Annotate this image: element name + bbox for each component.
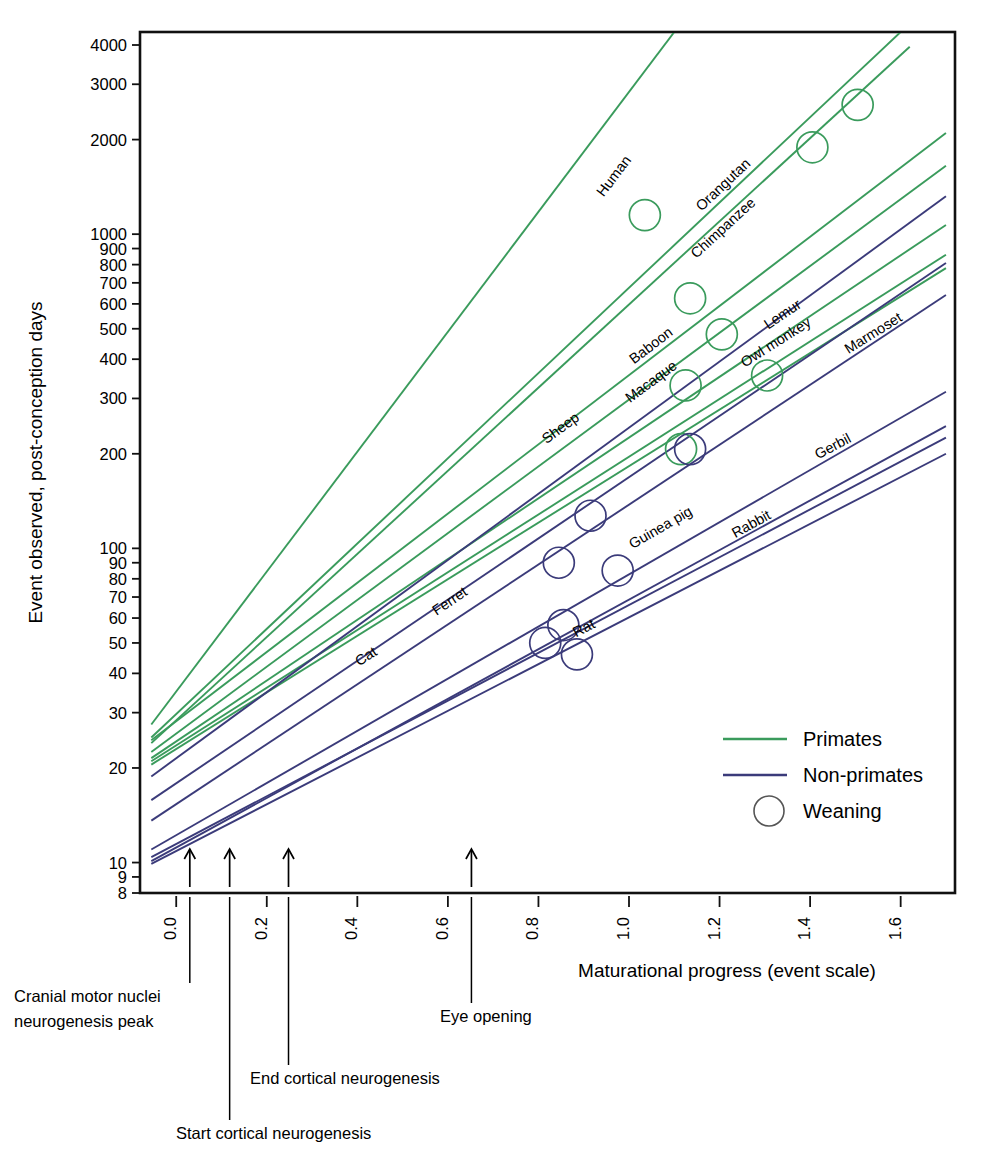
species-labels: HumanOrangutanChimpanzeeBaboonMacaqueLem… <box>352 152 905 669</box>
y-tick-label: 700 <box>99 274 127 292</box>
weaning-marker-baboon <box>675 283 706 314</box>
series-line-macaque <box>151 166 946 752</box>
growth-log-chart: Event observed, post-conception days Mat… <box>0 0 981 1162</box>
y-tick-label: 50 <box>109 634 127 652</box>
y-tick-label: 400 <box>99 350 127 368</box>
y-tick-label: 40 <box>109 664 127 682</box>
weaning-marker-macaque <box>706 319 737 350</box>
species-label-sheep: Sheep <box>539 409 582 447</box>
series-line-owl-monkey <box>151 255 946 762</box>
x-tick-label: 0.6 <box>433 917 451 940</box>
y-tick-label: 20 <box>109 759 127 777</box>
annotation-label: Start cortical neurogenesis <box>176 1124 371 1142</box>
annotation-label: End cortical neurogenesis <box>250 1069 440 1087</box>
annotation-label: Cranial motor nucleineurogenesis peak <box>14 987 161 1030</box>
y-tick-label: 800 <box>99 256 127 274</box>
series-line-sheep <box>151 196 946 776</box>
series-line-human <box>151 32 674 725</box>
species-label-cat: Cat <box>352 643 380 669</box>
x-axis-title: Maturational progress (event scale) <box>578 960 876 981</box>
y-tick-label: 200 <box>99 445 127 463</box>
species-label-human: Human <box>593 152 634 199</box>
y-tick-label: 3000 <box>90 75 127 93</box>
chart-legend: PrimatesNon-primatesWeaning <box>723 728 923 826</box>
x-axis-title-group: Maturational progress (event scale) <box>578 960 876 981</box>
y-tick-label: 80 <box>109 570 127 588</box>
y-tick-label: 60 <box>109 609 127 627</box>
x-tick-label: 1.2 <box>705 917 723 940</box>
series-line-orangutan <box>151 32 900 738</box>
x-tick-label: 1.6 <box>886 917 904 940</box>
y-tick-label: 500 <box>99 320 127 338</box>
x-tick-label: 1.4 <box>795 917 813 940</box>
legend-label-weaning: Weaning <box>803 800 882 822</box>
y-tick-label: 70 <box>109 588 127 606</box>
x-tick-label: 0.4 <box>342 917 360 940</box>
y-tick-label: 8 <box>118 884 127 902</box>
y-tick-label: 100 <box>99 539 127 557</box>
annotation-label: Eye opening <box>440 1007 532 1025</box>
y-axis-title-group: Event observed, post-conception days <box>25 301 46 623</box>
legend-swatch-circle <box>754 796 784 826</box>
figure-panel: Event observed, post-conception days Mat… <box>0 0 981 1162</box>
series-line-ferret <box>151 263 946 800</box>
x-axis-ticks: 0.00.20.40.60.81.01.21.41.6 <box>161 896 903 940</box>
weaning-markers <box>530 89 873 669</box>
x-tick-label: 0.2 <box>252 917 270 940</box>
x-tick-label: 0.8 <box>523 917 541 940</box>
x-tick-label: 0.0 <box>161 917 179 940</box>
weaning-marker-ferret <box>575 500 606 531</box>
x-tick-label: 1.0 <box>614 917 632 940</box>
series-line-gerbil <box>151 438 946 857</box>
legend-label-non-primates: Non-primates <box>803 764 923 786</box>
species-label-rabbit: Rabbit <box>729 507 773 541</box>
species-label-guinea-pig: Guinea pig <box>626 503 695 552</box>
y-axis-ticks: 8910203040506070809010020030040050060070… <box>90 36 140 902</box>
y-tick-label: 300 <box>99 389 127 407</box>
legend-label-primates: Primates <box>803 728 882 750</box>
y-tick-label: 30 <box>109 704 127 722</box>
weaning-marker-sheep <box>675 434 706 465</box>
y-tick-label: 1000 <box>90 225 127 243</box>
y-axis-title: Event observed, post-conception days <box>25 301 46 623</box>
weaning-marker-human <box>629 200 660 231</box>
y-tick-label: 10 <box>109 854 127 872</box>
y-tick-label: 600 <box>99 295 127 313</box>
y-tick-label: 2000 <box>90 131 127 149</box>
y-tick-label: 4000 <box>90 36 127 54</box>
